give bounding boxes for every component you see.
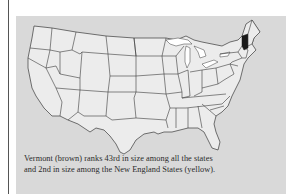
vermont-highlight (242, 34, 248, 50)
us-states-map (16, 16, 286, 166)
figure-caption: Vermont (brown) ranks 43rd in size among… (24, 154, 286, 175)
caption-line-2: and 2nd in size among the New England St… (24, 165, 286, 176)
us-outline (28, 20, 260, 154)
margin-rule (8, 0, 9, 194)
caption-line-1: Vermont (brown) ranks 43rd in size among… (24, 154, 286, 165)
figure-panel: Vermont (brown) ranks 43rd in size among… (16, 16, 286, 194)
